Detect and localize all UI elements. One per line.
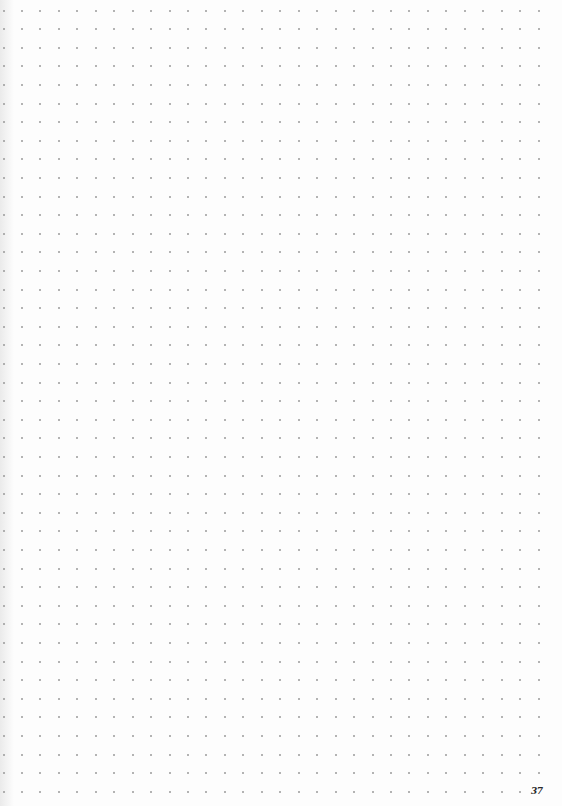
grid-dot bbox=[464, 177, 466, 179]
grid-dot bbox=[242, 586, 244, 588]
grid-dot bbox=[279, 735, 281, 737]
grid-dot bbox=[39, 47, 41, 49]
grid-dot bbox=[21, 568, 23, 570]
grid-dot bbox=[261, 363, 263, 365]
grid-dot bbox=[390, 735, 392, 737]
grid-dot bbox=[150, 512, 152, 514]
grid-dot bbox=[298, 344, 300, 346]
grid-dot bbox=[408, 419, 410, 421]
grid-dot bbox=[390, 679, 392, 681]
grid-dot bbox=[205, 512, 207, 514]
grid-dot bbox=[501, 270, 503, 272]
grid-dot bbox=[353, 84, 355, 86]
grid-dot bbox=[21, 512, 23, 514]
grid-dot bbox=[76, 47, 78, 49]
grid-dot bbox=[187, 289, 189, 291]
grid-dot bbox=[132, 400, 134, 402]
grid-dot bbox=[390, 493, 392, 495]
grid-dot bbox=[150, 140, 152, 142]
grid-dot bbox=[3, 754, 5, 756]
grid-dot bbox=[408, 605, 410, 607]
grid-dot bbox=[445, 233, 447, 235]
grid-dot bbox=[482, 735, 484, 737]
grid-dot bbox=[427, 568, 429, 570]
grid-dot bbox=[132, 28, 134, 30]
grid-dot bbox=[464, 586, 466, 588]
grid-dot bbox=[113, 382, 115, 384]
grid-dot bbox=[205, 233, 207, 235]
grid-dot bbox=[242, 475, 244, 477]
grid-dot bbox=[519, 437, 521, 439]
grid-dot bbox=[298, 307, 300, 309]
grid-dot bbox=[224, 475, 226, 477]
grid-dot bbox=[538, 735, 540, 737]
grid-dot bbox=[113, 28, 115, 30]
grid-dot bbox=[519, 326, 521, 328]
grid-dot bbox=[224, 233, 226, 235]
grid-dot bbox=[113, 233, 115, 235]
grid-dot bbox=[501, 158, 503, 160]
grid-dot bbox=[482, 28, 484, 30]
grid-dot bbox=[205, 772, 207, 774]
grid-dot bbox=[519, 140, 521, 142]
grid-dot bbox=[224, 791, 226, 793]
grid-dot bbox=[353, 716, 355, 718]
grid-dot bbox=[150, 84, 152, 86]
grid-dot bbox=[169, 47, 171, 49]
grid-dot bbox=[353, 158, 355, 160]
grid-dot bbox=[427, 716, 429, 718]
grid-dot bbox=[58, 382, 60, 384]
grid-dot bbox=[335, 84, 337, 86]
grid-dot bbox=[335, 493, 337, 495]
grid-dot bbox=[39, 549, 41, 551]
grid-dot bbox=[242, 363, 244, 365]
grid-dot bbox=[464, 251, 466, 253]
grid-dot bbox=[298, 382, 300, 384]
grid-dot bbox=[464, 140, 466, 142]
grid-dot bbox=[261, 772, 263, 774]
grid-dot bbox=[113, 121, 115, 123]
grid-dot bbox=[501, 214, 503, 216]
grid-dot bbox=[3, 512, 5, 514]
grid-dot bbox=[95, 214, 97, 216]
grid-dot bbox=[353, 735, 355, 737]
grid-dot bbox=[390, 307, 392, 309]
grid-dot bbox=[132, 158, 134, 160]
grid-dot bbox=[501, 326, 503, 328]
grid-dot bbox=[335, 10, 337, 12]
grid-dot bbox=[372, 735, 374, 737]
grid-dot bbox=[187, 772, 189, 774]
grid-dot bbox=[279, 307, 281, 309]
grid-dot bbox=[464, 65, 466, 67]
grid-dot bbox=[482, 754, 484, 756]
grid-dot bbox=[482, 493, 484, 495]
grid-dot bbox=[390, 642, 392, 644]
grid-dot bbox=[316, 679, 318, 681]
grid-dot bbox=[150, 289, 152, 291]
grid-dot bbox=[3, 84, 5, 86]
grid-dot bbox=[150, 103, 152, 105]
grid-dot bbox=[482, 419, 484, 421]
grid-dot bbox=[95, 586, 97, 588]
grid-dot bbox=[58, 475, 60, 477]
grid-dot bbox=[353, 251, 355, 253]
grid-dot bbox=[113, 586, 115, 588]
grid-dot bbox=[298, 530, 300, 532]
grid-dot bbox=[316, 437, 318, 439]
grid-dot bbox=[39, 493, 41, 495]
grid-dot bbox=[298, 754, 300, 756]
grid-dot bbox=[150, 754, 152, 756]
grid-dot bbox=[279, 586, 281, 588]
grid-dot bbox=[21, 121, 23, 123]
grid-dot bbox=[279, 10, 281, 12]
grid-dot bbox=[261, 735, 263, 737]
grid-dot bbox=[353, 772, 355, 774]
grid-dot bbox=[501, 196, 503, 198]
grid-dot bbox=[335, 177, 337, 179]
grid-dot bbox=[538, 419, 540, 421]
grid-dot bbox=[132, 307, 134, 309]
grid-dot bbox=[3, 679, 5, 681]
grid-dot bbox=[150, 735, 152, 737]
grid-dot bbox=[538, 512, 540, 514]
grid-dot bbox=[427, 512, 429, 514]
